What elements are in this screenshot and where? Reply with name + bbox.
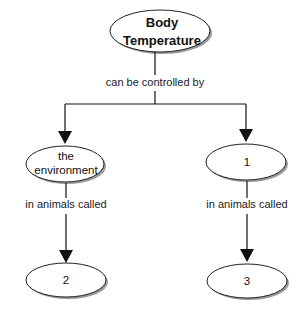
node-the-environment: the environment [26, 146, 106, 184]
arrowhead-icon [239, 129, 253, 142]
edge-label: can be controlled by [106, 76, 205, 88]
node-1: 1 [206, 144, 288, 182]
edge-left-to-bottom: in animals called [25, 183, 106, 263]
node-label-line2: environment [34, 164, 98, 176]
arrowhead-icon [59, 250, 73, 263]
edge-label: in animals called [206, 198, 287, 210]
node-label: 2 [63, 274, 69, 286]
edge-root-to-children: can be controlled by [58, 52, 253, 144]
node-body-temperature: Body Temperature [110, 10, 212, 54]
concept-map: Body Temperature can be controlled by th… [0, 0, 306, 316]
arrowhead-icon [58, 131, 72, 144]
arrowhead-icon [240, 249, 254, 262]
node-label: 1 [244, 156, 250, 168]
node-label-line1: the [58, 150, 74, 162]
node-2: 2 [26, 263, 108, 299]
node-label-line2: Temperature [123, 33, 201, 48]
node-3: 3 [207, 264, 289, 300]
edge-right-to-bottom: in animals called [206, 181, 287, 262]
node-label: 3 [244, 275, 250, 287]
edge-label: in animals called [25, 198, 106, 210]
node-label-line1: Body [146, 15, 179, 30]
